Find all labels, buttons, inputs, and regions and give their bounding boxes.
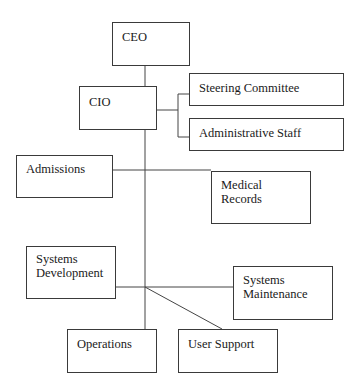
node-administrative-staff-label: Administrative Staff [199, 126, 301, 140]
node-systems-development: Systems Development [26, 246, 116, 299]
node-cio-label: CIO [89, 95, 111, 109]
node-user-support: User Support [178, 329, 278, 373]
node-cio: CIO [79, 86, 157, 130]
node-administrative-staff: Administrative Staff [189, 118, 344, 151]
node-systems-maintenance: Systems Maintenance [233, 266, 333, 320]
node-medical-records-label: Medical Records [221, 178, 262, 206]
node-admissions: Admissions [16, 155, 113, 198]
node-user-support-label: User Support [188, 337, 254, 351]
node-medical-records: Medical Records [211, 171, 311, 224]
node-steering-committee: Steering Committee [189, 73, 344, 106]
node-steering-committee-label: Steering Committee [199, 81, 299, 95]
node-ceo: CEO [112, 22, 190, 66]
node-admissions-label: Admissions [26, 162, 85, 176]
node-systems-development-label: Systems Development [36, 252, 103, 280]
node-systems-maintenance-label: Systems Maintenance [243, 273, 308, 301]
node-operations-label: Operations [77, 337, 132, 351]
node-operations: Operations [67, 329, 157, 373]
node-ceo-label: CEO [122, 30, 147, 44]
